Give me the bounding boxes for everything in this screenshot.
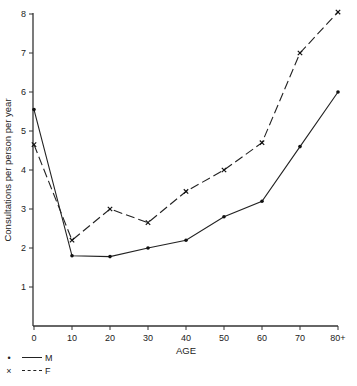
line-chart: 12345678 01020304050607080+ Consultation… [0,0,357,386]
y-tick-label: 3 [21,204,26,214]
data-point-dot [184,238,188,242]
y-tick-label: 6 [21,87,26,97]
y-tick-label: 2 [21,243,26,253]
legend-label-m: M [45,353,53,363]
data-point-dot [32,108,36,112]
legend: • M × F [4,351,53,377]
x-tick-label: 10 [67,333,77,343]
data-point-dot [336,90,340,94]
y-tick-label: 5 [21,126,26,136]
series-line-f [34,12,338,240]
x-axis: 01020304050607080+ [31,326,345,343]
legend-item-m: • M [4,351,53,364]
legend-item-f: × F [4,364,53,377]
x-tick-label: 70 [295,333,305,343]
data-point-cross [222,168,226,172]
data-point-cross [298,51,302,55]
cross-marker-icon: × [4,366,14,376]
data-point-dot [298,145,302,149]
data-point-dot [146,246,150,250]
data-point-dot [70,254,74,258]
data-point-cross [260,141,264,145]
x-tick-label: 50 [219,333,229,343]
chart-series [32,10,340,259]
legend-label-f: F [45,366,51,376]
dashed-line-icon [22,370,42,371]
series-line-m [34,92,338,257]
data-point-cross [108,207,112,211]
data-point-dot [260,199,264,203]
data-point-cross [70,238,74,242]
data-point-dot [108,255,112,259]
y-tick-label: 1 [21,282,26,292]
x-tick-label: 0 [31,333,36,343]
x-tick-label: 60 [257,333,267,343]
x-tick-label: 30 [143,333,153,343]
y-tick-label: 4 [21,165,26,175]
x-tick-label: 40 [181,333,191,343]
data-point-cross [336,10,340,14]
y-tick-label: 7 [21,48,26,58]
data-point-dot [222,215,226,219]
dot-marker-icon: • [4,353,14,363]
data-point-cross [184,189,188,193]
y-tick-label: 8 [21,9,26,19]
x-tick-label: 20 [105,333,115,343]
solid-line-icon [22,357,42,358]
x-axis-title: AGE [176,345,196,356]
y-axis: 12345678 [21,9,33,326]
y-axis-title: Consultations per person per year [2,98,13,241]
x-tick-label: 80+ [330,333,345,343]
